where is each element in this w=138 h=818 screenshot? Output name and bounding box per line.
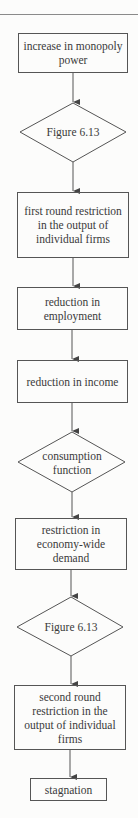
node-label: reduction in income xyxy=(27,375,119,389)
node-label: second round restriction in the output o… xyxy=(18,690,122,746)
node-label: restriction in economy-wide demand xyxy=(19,523,123,565)
node-label: increase in monopoly power xyxy=(22,39,124,67)
node-label: first round restriction in the output of… xyxy=(21,204,125,246)
node-reduction-in-employment: reduction in employment xyxy=(17,287,128,330)
node-label: stagnation xyxy=(45,783,92,797)
node-stagnation: stagnation xyxy=(30,778,107,801)
node-reduction-in-income: reduction in income xyxy=(17,360,128,403)
node-second-round-restriction: second round restriction in the output o… xyxy=(14,685,126,750)
node-label: consumption function xyxy=(32,449,112,477)
node-increase-in-monopoly-power: increase in monopoly power xyxy=(18,33,128,73)
node-label: reduction in employment xyxy=(21,295,124,323)
node-label: Figure 6.13 xyxy=(44,620,97,634)
node-restriction-economy-wide-demand: restriction in economy-wide demand xyxy=(15,518,127,570)
node-figure-6-13-second: Figure 6.13 xyxy=(28,613,114,641)
node-label: Figure 6.13 xyxy=(46,125,99,139)
node-figure-6-13-first: Figure 6.13 xyxy=(30,118,116,146)
node-consumption-function: consumption function xyxy=(32,448,112,478)
node-first-round-restriction: first round restriction in the output of… xyxy=(17,192,129,258)
